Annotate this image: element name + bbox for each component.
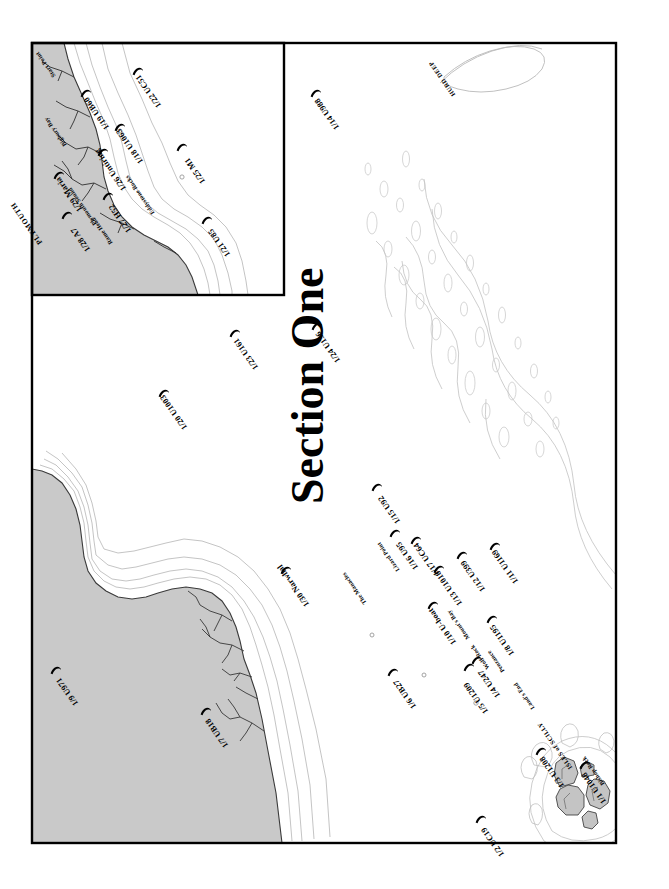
map-rotation-wrapper: 1/1 U1048 1/2 UC19 1/3 U1208 1/4 U247 1/… [0,0,669,889]
inset-map-contents [32,43,284,295]
map-page: 1/1 U1048 1/2 UC19 1/3 U1208 1/4 U247 1/… [0,0,669,889]
map-canvas: 1/1 U1048 1/2 UC19 1/3 U1208 1/4 U247 1/… [0,0,669,889]
map-geography [0,0,669,889]
map-section-title: Section One [281,268,334,504]
